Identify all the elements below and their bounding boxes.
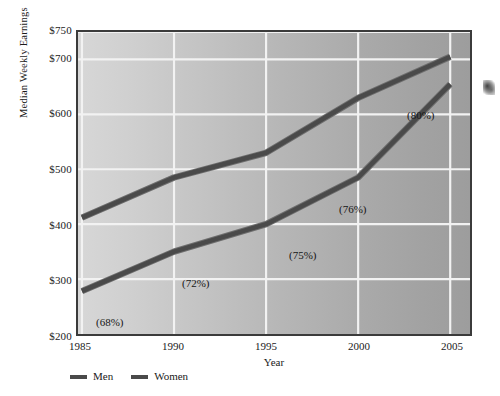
chart-legend: MenWomen: [70, 371, 188, 382]
x-axis-tick-label: 1990: [143, 341, 203, 352]
data-annotation: (80%): [407, 110, 435, 121]
y-axis-tick-label: $400: [12, 220, 72, 231]
legend-label: Men: [93, 371, 113, 382]
plot-svg: [78, 32, 470, 334]
x-axis-title: Year: [0, 357, 500, 368]
y-axis-tick-label: $500: [12, 164, 72, 175]
plot-area: (68%)(72%)(75%)(76%)(80%): [76, 30, 472, 336]
x-axis-tick-label: 2000: [329, 341, 389, 352]
data-annotation: (76%): [339, 204, 367, 215]
legend-item: Men: [70, 371, 113, 382]
x-axis-tick-label: 1985: [50, 341, 110, 352]
x-axis-tick-label: 1995: [236, 341, 296, 352]
y-axis-tick-label: $600: [12, 108, 72, 119]
legend-swatch: [70, 375, 87, 379]
x-axis-tick-label: 2005: [422, 341, 482, 352]
data-annotation: (75%): [289, 250, 317, 261]
y-axis-tick-label: $300: [12, 275, 72, 286]
line-chart-figure: Median Weekly Earnings $750$700$600$500$…: [0, 0, 500, 396]
y-axis-tick-label: $700: [12, 53, 72, 64]
legend-item: Women: [131, 371, 188, 382]
legend-label: Women: [154, 371, 188, 382]
legend-swatch: [131, 375, 148, 379]
data-annotation: (68%): [96, 317, 124, 328]
y-axis-tick-label: $750: [12, 25, 72, 36]
data-annotation: (72%): [182, 278, 210, 289]
scan-smudge-artifact: [483, 80, 495, 95]
